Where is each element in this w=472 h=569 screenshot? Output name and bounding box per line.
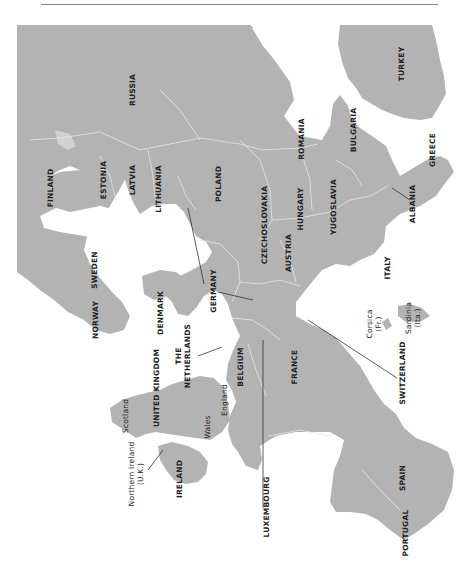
label-sardinia: Sardinia (Ita.) xyxy=(405,302,422,334)
label-the-netherlands-line2: NETHERLANDS xyxy=(184,324,193,388)
label-switzerland: SWITZERLAND xyxy=(399,341,408,404)
label-corsica-line2: (Fr.) xyxy=(375,309,384,338)
label-romania: ROMANIA xyxy=(298,118,307,160)
label-belgium: BELGIUM xyxy=(237,347,246,387)
label-greece: GREECE xyxy=(429,133,438,167)
label-italy: ITALY xyxy=(384,256,393,279)
label-hungary: HUNGARY xyxy=(297,188,306,231)
label-united-kingdom: UNITED KINGDOM xyxy=(153,349,162,427)
label-wales: Wales xyxy=(204,415,213,438)
label-luxembourg: LUXEMBOURG xyxy=(263,476,272,537)
label-sweden: SWEDEN xyxy=(91,251,100,289)
label-germany: GERMANY xyxy=(210,269,219,312)
label-england: England xyxy=(221,384,230,416)
label-turkey: TURKEY xyxy=(398,47,407,82)
label-austria: AUSTRIA xyxy=(285,234,294,272)
label-sardinia-line2: (Ita.) xyxy=(414,302,423,334)
label-estonia: ESTONIA xyxy=(100,161,109,199)
label-latvia: LATVIA xyxy=(129,165,138,196)
label-northern-ireland-line2: (U.K.) xyxy=(137,442,146,507)
label-the-netherlands: THE NETHERLANDS xyxy=(175,324,192,388)
label-norway: NORWAY xyxy=(92,301,101,339)
label-bulgaria: BULGARIA xyxy=(350,108,359,153)
label-poland: POLAND xyxy=(215,166,224,202)
label-yugoslavia: YUGOSLAVIA xyxy=(330,179,339,235)
label-corsica: Corsica (Fr.) xyxy=(366,309,383,338)
label-denmark: DENMARK xyxy=(157,291,166,335)
label-portugal: PORTUGAL xyxy=(402,510,411,557)
landmass-turkey xyxy=(338,25,446,120)
label-france: FRANCE xyxy=(291,350,300,385)
label-northern-ireland: Northern Ireland (U.K.) xyxy=(128,442,145,507)
label-lithuania: LITHUANIA xyxy=(155,165,164,212)
label-russia: RUSSIA xyxy=(129,74,138,106)
label-finland: FINLAND xyxy=(47,169,56,208)
leader-netherlands xyxy=(198,347,222,356)
label-czechoslovakia: CZECHOSLOVAKIA xyxy=(261,186,270,265)
label-spain: SPAIN xyxy=(399,465,408,491)
landmass-scandinavia xyxy=(17,160,130,334)
label-ireland: IRELAND xyxy=(176,460,185,498)
label-albania: ALBANIA xyxy=(409,185,418,223)
label-scotland: Scotland xyxy=(122,399,131,433)
